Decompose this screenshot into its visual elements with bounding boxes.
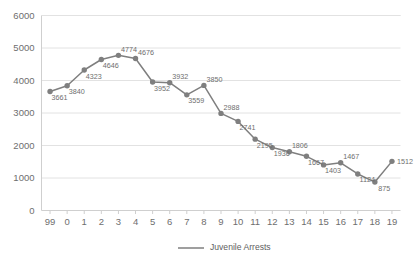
data-point-label: 1936 bbox=[274, 149, 290, 158]
y-tick-label: 6000 bbox=[13, 10, 34, 21]
data-point-label: 3952 bbox=[154, 84, 170, 93]
data-point-label: 4774 bbox=[121, 45, 137, 54]
x-axis: 99012345678910111213141516171819 bbox=[45, 211, 397, 227]
y-tick-label: 0 bbox=[29, 205, 34, 216]
chart-legend: Juvenile Arrests bbox=[178, 242, 271, 252]
data-point-label: 1667 bbox=[308, 158, 324, 167]
y-tick-label: 5000 bbox=[13, 42, 34, 53]
y-axis: 0100020003000400050006000 bbox=[13, 10, 34, 216]
data-point-label: 3850 bbox=[206, 75, 222, 84]
data-point-label: 2741 bbox=[240, 123, 256, 132]
x-tick-label: 5 bbox=[150, 216, 155, 227]
y-tick-label: 1000 bbox=[13, 172, 34, 183]
data-point-label: 4646 bbox=[103, 61, 119, 70]
data-point-label: 1467 bbox=[343, 152, 359, 161]
data-point-label: 2988 bbox=[224, 103, 240, 112]
x-tick-label: 12 bbox=[267, 216, 278, 227]
data-point-label: 1403 bbox=[325, 166, 341, 175]
x-tick-label: 0 bbox=[64, 216, 69, 227]
x-tick-label: 16 bbox=[335, 216, 346, 227]
x-tick-label: 3 bbox=[116, 216, 121, 227]
data-point-label: 1512 bbox=[397, 157, 413, 166]
x-tick-label: 17 bbox=[352, 216, 363, 227]
x-tick-label: 9 bbox=[218, 216, 223, 227]
x-tick-label: 15 bbox=[318, 216, 329, 227]
x-tick-label: 11 bbox=[250, 216, 260, 227]
legend-label: Juvenile Arrests bbox=[210, 242, 271, 252]
data-point-label: 3559 bbox=[188, 96, 204, 105]
x-tick-label: 8 bbox=[201, 216, 206, 227]
data-point-label: 4323 bbox=[86, 72, 102, 81]
data-point-label: 4676 bbox=[138, 48, 154, 57]
data-point-label: 1806 bbox=[292, 141, 308, 150]
x-tick-label: 10 bbox=[233, 216, 244, 227]
x-tick-label: 4 bbox=[133, 216, 138, 227]
x-tick-label: 14 bbox=[301, 216, 312, 227]
x-tick-label: 13 bbox=[284, 216, 295, 227]
x-tick-label: 7 bbox=[184, 216, 189, 227]
x-tick-label: 1 bbox=[82, 216, 87, 227]
data-point-label: 875 bbox=[378, 184, 390, 193]
y-tick-label: 3000 bbox=[13, 107, 34, 118]
chart-canvas: 0100020003000400050006000 99012345678910… bbox=[0, 0, 414, 264]
x-tick-label: 19 bbox=[387, 216, 398, 227]
data-point-label: 3661 bbox=[52, 93, 68, 102]
data-point-label: 3932 bbox=[172, 72, 188, 81]
data-point-label: 1124 bbox=[360, 175, 375, 184]
data-point-label: 2195 bbox=[257, 141, 273, 150]
data-point-label: 3840 bbox=[69, 87, 85, 96]
juvenile-arrests-line-chart: 0100020003000400050006000 99012345678910… bbox=[0, 0, 414, 264]
y-tick-label: 4000 bbox=[13, 75, 34, 86]
data-point bbox=[389, 159, 394, 164]
x-tick-label: 6 bbox=[167, 216, 172, 227]
x-tick-label: 18 bbox=[370, 216, 381, 227]
x-tick-label: 2 bbox=[99, 216, 104, 227]
x-tick-label: 99 bbox=[45, 216, 56, 227]
y-tick-label: 2000 bbox=[13, 140, 34, 151]
